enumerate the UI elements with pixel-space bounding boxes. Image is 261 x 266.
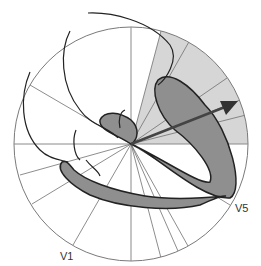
label-v1: V1 (60, 250, 73, 262)
label-v5: V5 (235, 202, 248, 214)
vector-loop-diagram (0, 0, 261, 266)
